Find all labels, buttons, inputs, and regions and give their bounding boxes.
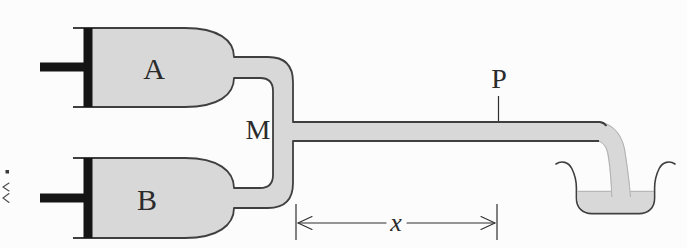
label-syringe-b: B (137, 183, 157, 216)
label-syringe-a: A (143, 52, 165, 85)
label-distance-x: x (389, 208, 402, 237)
plunger-b-rod (40, 194, 85, 203)
figure-canvas: A B M P x (0, 0, 687, 248)
label-mixing-point: M (246, 114, 271, 145)
page-edge-artifact (3, 170, 9, 203)
label-observation-point: P (491, 63, 507, 94)
plunger-a (40, 28, 93, 107)
plunger-a-rod (40, 63, 85, 72)
flow-apparatus-figure: A B M P x (0, 0, 687, 248)
plunger-b (40, 158, 93, 238)
